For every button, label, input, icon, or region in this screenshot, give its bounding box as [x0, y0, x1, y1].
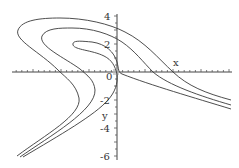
- x-axis-label: x: [173, 57, 179, 68]
- y-tick-label-neg4: -4: [100, 123, 110, 134]
- y-tick-label-neg6: -6: [100, 151, 110, 162]
- y-tick-label-neg2: -2: [100, 95, 110, 106]
- middle-curve: [20, 28, 231, 157]
- y-tick-label-4: 4: [104, 11, 110, 22]
- inner-curve: [23, 41, 231, 157]
- outer-curve: [17, 18, 231, 156]
- y-tick-label-0: 0: [106, 71, 112, 82]
- y-axis-label: y: [101, 110, 108, 121]
- plot-area: 4 2 0 -2 -4 -6 x y: [0, 0, 239, 168]
- y-tick-label-2: 2: [104, 39, 110, 50]
